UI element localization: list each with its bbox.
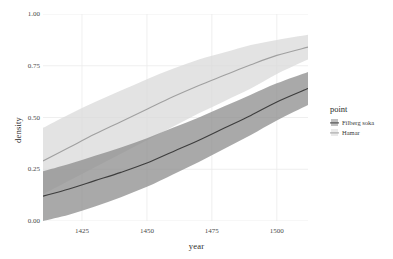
x-tick-label: 1475 <box>205 227 219 235</box>
y-tick-label: 1.00 <box>14 10 40 18</box>
legend-key-icon <box>330 118 339 127</box>
legend-item-label: Hamar <box>342 129 360 136</box>
legend-item[interactable]: Hamar <box>330 128 392 137</box>
x-axis-title: year <box>0 241 393 251</box>
legend-key-icon <box>330 128 339 137</box>
density-by-year-chart: 0.000.250.500.751.00 1425145014751500 de… <box>0 0 393 259</box>
y-tick-label: 0.00 <box>14 217 40 225</box>
legend-item[interactable]: Filberg soka <box>330 118 392 127</box>
legend-title: point <box>330 104 392 114</box>
x-tick-label: 1425 <box>75 227 89 235</box>
legend: point Filberg sokaHamar <box>330 104 392 138</box>
y-axis-title: density <box>13 117 23 143</box>
legend-items: Filberg sokaHamar <box>330 118 392 137</box>
y-tick-label: 0.75 <box>14 62 40 70</box>
plot-panel <box>43 14 308 221</box>
trend-lines <box>43 14 308 221</box>
x-axis-tick-labels: 1425145014751500 <box>0 226 393 240</box>
x-tick-label: 1500 <box>270 227 284 235</box>
y-tick-label: 0.25 <box>14 165 40 173</box>
x-tick-label: 1450 <box>140 227 154 235</box>
legend-item-label: Filberg soka <box>342 119 374 126</box>
